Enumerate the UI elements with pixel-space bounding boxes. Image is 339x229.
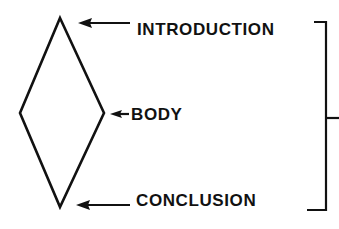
body-label: BODY <box>131 106 183 123</box>
essay-structure-diagram: INTRODUCTION BODY CONCLUSION <box>0 0 339 229</box>
conclusion-arrow-icon <box>76 200 130 210</box>
introduction-arrow-icon <box>78 18 130 28</box>
introduction-label: INTRODUCTION <box>137 21 275 38</box>
bracket <box>307 22 339 210</box>
body-arrow-icon <box>110 110 129 118</box>
diamond-shape <box>20 18 104 207</box>
conclusion-label: CONCLUSION <box>136 192 256 209</box>
